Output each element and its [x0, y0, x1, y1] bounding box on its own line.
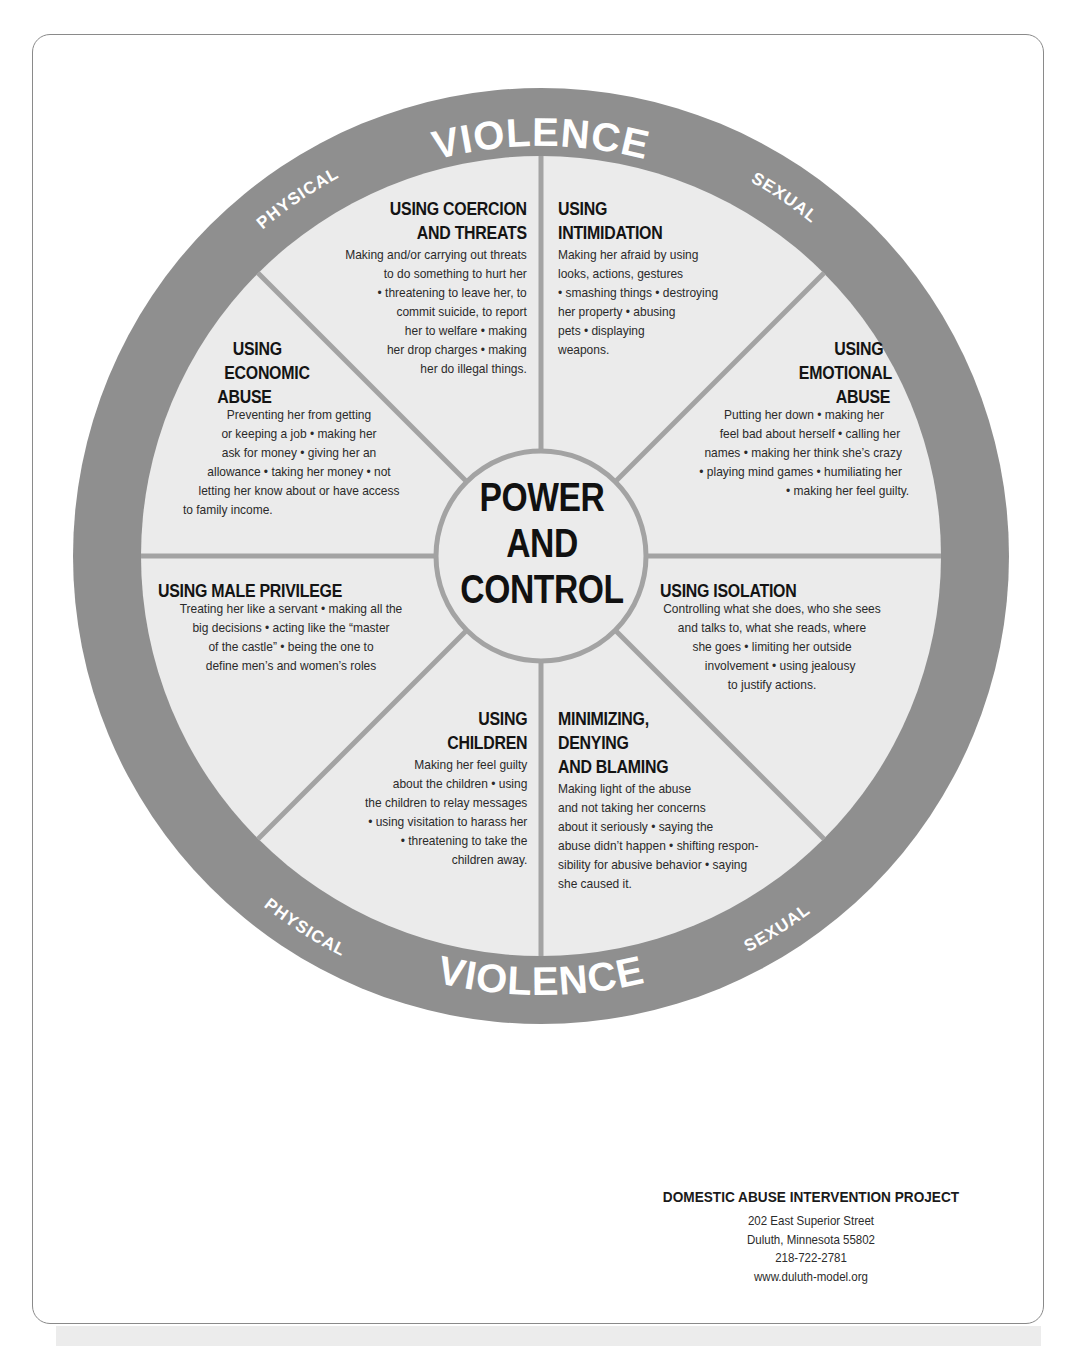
segment-text: Putting her down • making her	[699, 405, 909, 424]
segment-text: • threatening to take the	[365, 831, 527, 850]
segment-text: • smashing things • destroying	[558, 283, 718, 302]
segment-text: Making and/or carrying out threats	[345, 245, 527, 264]
segment-text: • making her feel guilty.	[699, 481, 909, 500]
segment-text: allowance • taking her money • not	[178, 462, 421, 481]
segment-text: or keeping a job • making her	[178, 424, 421, 443]
segment-text: Making her afraid by using	[558, 245, 718, 264]
segment-heading: MINIMIZING,	[558, 707, 750, 731]
segment-heading: USING COERCION	[353, 197, 527, 221]
segment-text: names • making her think she’s crazy	[699, 443, 909, 462]
segment-heading: AND BLAMING	[558, 755, 750, 779]
segment-text: involvement • using jealousy	[660, 656, 883, 675]
segment-text: and not taking her concerns	[558, 798, 758, 817]
organization-footer: DOMESTIC ABUSE INTERVENTION PROJECT 202 …	[641, 1188, 981, 1286]
segment-intimidation: USING INTIMIDATION Making her afraid by …	[558, 197, 736, 359]
segment-text: big decisions • acting like the “master	[171, 618, 410, 637]
segment-text: commit suicide, to report	[345, 302, 527, 321]
center-line-and: AND	[455, 520, 629, 566]
segment-heading: DENYING	[558, 731, 750, 755]
phone-number: 218-722-2781	[658, 1249, 964, 1268]
segment-economic-abuse: USING ECONOMIC ABUSE Preventing her from…	[164, 337, 434, 519]
segment-emotional-abuse: USING EMOTIONAL ABUSE Putting her down •…	[676, 337, 909, 500]
segment-text: looks, actions, gestures	[558, 264, 718, 283]
segment-text: • using visitation to harass her	[365, 812, 527, 831]
segment-text: sibility for abusive behavior • saying	[558, 855, 758, 874]
segment-heading: INTIMIDATION	[558, 221, 711, 245]
segment-text: • playing mind games • humiliating her	[699, 462, 909, 481]
segment-heading: USING	[708, 337, 909, 361]
segment-text: Controlling what she does, who she sees	[660, 599, 883, 618]
address-city: Duluth, Minnesota 55802	[658, 1231, 964, 1250]
organization-name: DOMESTIC ABUSE INTERVENTION PROJECT	[661, 1188, 960, 1206]
segment-heading: ECONOMIC	[183, 361, 415, 385]
segment-text: she goes • limiting her outside	[660, 637, 883, 656]
website-link[interactable]: www.duluth-model.org	[658, 1268, 964, 1287]
segment-text: children away.	[365, 850, 527, 869]
center-line-power: POWER	[455, 474, 629, 520]
segment-text: to do something to hurt her	[345, 264, 527, 283]
address-street: 202 East Superior Street	[658, 1212, 964, 1231]
segment-minimizing-denying-blaming: MINIMIZING, DENYING AND BLAMING Making l…	[558, 707, 781, 893]
segment-text: feel bad about herself • calling her	[699, 424, 909, 443]
center-title: POWER AND CONTROL	[436, 474, 648, 612]
segment-text: Making her feel guilty	[365, 755, 527, 774]
segment-heading: EMOTIONAL	[708, 361, 909, 385]
segment-text: about the children • using	[365, 774, 527, 793]
segment-text: to justify actions.	[660, 675, 883, 694]
segment-heading: AND THREATS	[353, 221, 527, 245]
segment-text: ask for money • giving her an	[178, 443, 421, 462]
segment-text: and talks to, what she reads, where	[660, 618, 883, 637]
segment-using-children: USING CHILDREN Making her feel guilty ab…	[347, 707, 527, 869]
segment-text: the children to relay messages	[365, 793, 527, 812]
segment-text: abuse didn’t happen • shifting respon-	[558, 836, 758, 855]
segment-heading: CHILDREN	[372, 731, 527, 755]
segment-male-privilege: USING MALE PRIVILEGE Treating her like a…	[158, 579, 424, 675]
segment-text: about it seriously • saying the	[558, 817, 758, 836]
segment-text: to family income.	[178, 500, 421, 519]
segment-heading: USING	[372, 707, 527, 731]
segment-isolation: USING ISOLATION Controlling what she doe…	[648, 579, 896, 694]
segment-heading: USING	[558, 197, 711, 221]
segment-text: her property • abusing	[558, 302, 718, 321]
segment-heading: USING	[183, 337, 415, 361]
segment-text: she caused it.	[558, 874, 758, 893]
segment-text: Preventing her from getting	[178, 405, 421, 424]
segment-text: of the castle” • being the one to	[171, 637, 410, 656]
segment-text: Making light of the abuse	[558, 779, 758, 798]
segment-text: Treating her like a servant • making all…	[171, 599, 410, 618]
center-line-control: CONTROL	[455, 566, 629, 612]
segment-text: • threatening to leave her, to	[345, 283, 527, 302]
segment-text: letting her know about or have access	[178, 481, 421, 500]
segment-text: define men’s and women’s roles	[171, 656, 410, 675]
